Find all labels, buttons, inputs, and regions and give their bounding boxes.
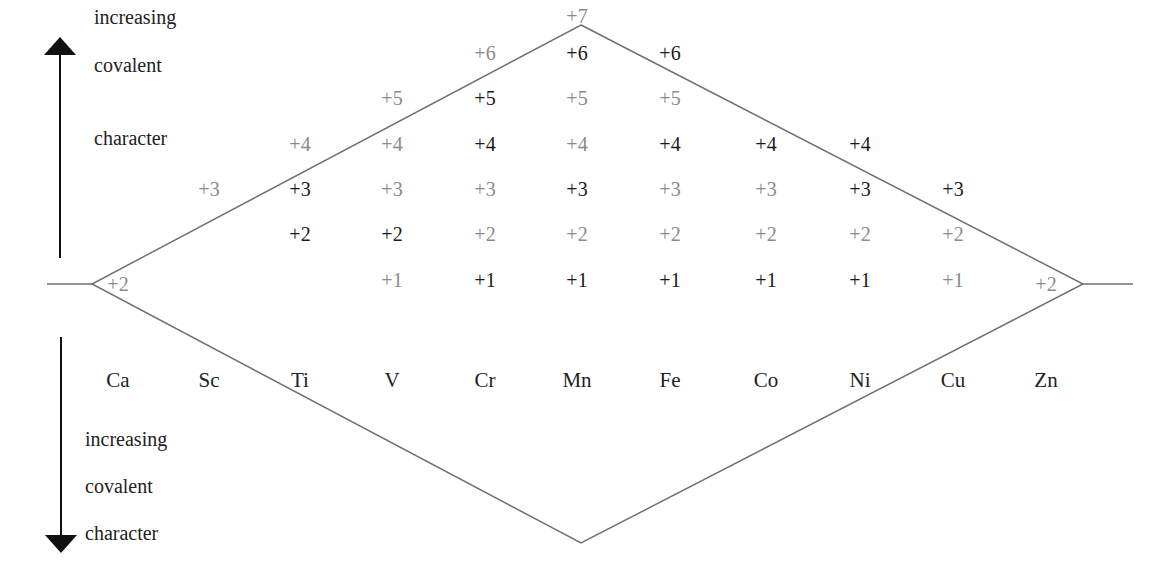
oxidation-state: +5 xyxy=(659,88,680,108)
oxidation-state: +5 xyxy=(566,88,587,108)
element-symbol: Ni xyxy=(850,370,871,391)
oxidation-state: +4 xyxy=(566,134,587,154)
oxidation-state: +1 xyxy=(849,270,870,290)
element-symbol: V xyxy=(384,370,399,391)
oxidation-state: +1 xyxy=(474,270,495,290)
oxidation-state: +3 xyxy=(942,179,963,199)
oxidation-state: +4 xyxy=(849,134,870,154)
down-arrow-icon xyxy=(45,337,77,553)
label-line: character xyxy=(94,128,167,148)
oxidation-state: +2 xyxy=(942,224,963,244)
oxidation-state: +3 xyxy=(849,179,870,199)
element-symbol: Cu xyxy=(941,370,966,391)
oxidation-state: +3 xyxy=(474,179,495,199)
oxidation-state: +2 xyxy=(659,224,680,244)
oxidation-state: +7 xyxy=(566,6,587,26)
oxidation-state: +3 xyxy=(659,179,680,199)
oxidation-state: +1 xyxy=(755,270,776,290)
oxidation-state: +2 xyxy=(381,224,402,244)
label-line: increasing xyxy=(85,429,167,449)
oxidation-state: +4 xyxy=(659,134,680,154)
oxidation-state: +5 xyxy=(474,88,495,108)
element-symbol: Sc xyxy=(199,370,220,391)
oxidation-state: +6 xyxy=(659,43,680,63)
label-line: covalent xyxy=(85,476,153,496)
oxidation-state: +6 xyxy=(474,43,495,63)
oxidation-state: +2 xyxy=(849,224,870,244)
oxidation-state: +6 xyxy=(566,43,587,63)
element-symbol: Ca xyxy=(106,370,129,391)
element-symbol: Mn xyxy=(562,370,591,391)
oxidation-state: +3 xyxy=(566,179,587,199)
oxidation-state: +2 xyxy=(474,224,495,244)
oxidation-state: +2 xyxy=(289,224,310,244)
oxidation-state: +4 xyxy=(474,134,495,154)
element-symbol: Fe xyxy=(660,370,681,391)
label-line: covalent xyxy=(94,55,162,75)
element-symbol: Cr xyxy=(475,370,496,391)
oxidation-state: +2 xyxy=(107,274,128,294)
up-arrow-icon xyxy=(44,37,76,258)
oxidation-state: +4 xyxy=(381,134,402,154)
element-symbol: Co xyxy=(754,370,779,391)
oxidation-state: +2 xyxy=(1035,274,1056,294)
label-line: character xyxy=(85,523,158,543)
oxidation-state: +5 xyxy=(381,88,402,108)
label-line: increasing xyxy=(94,7,176,27)
oxidation-state: +3 xyxy=(381,179,402,199)
oxidation-state: +4 xyxy=(289,134,310,154)
element-symbol: Zn xyxy=(1034,370,1057,391)
oxidation-state: +1 xyxy=(659,270,680,290)
oxidation-state: +2 xyxy=(566,224,587,244)
oxidation-state: +4 xyxy=(755,134,776,154)
element-symbol: Ti xyxy=(291,370,309,391)
oxidation-state: +3 xyxy=(755,179,776,199)
oxidation-state: +1 xyxy=(942,270,963,290)
oxidation-state: +1 xyxy=(381,270,402,290)
oxidation-state: +2 xyxy=(755,224,776,244)
oxidation-state: +3 xyxy=(198,179,219,199)
oxidation-state: +3 xyxy=(289,179,310,199)
oxidation-state: +1 xyxy=(566,270,587,290)
